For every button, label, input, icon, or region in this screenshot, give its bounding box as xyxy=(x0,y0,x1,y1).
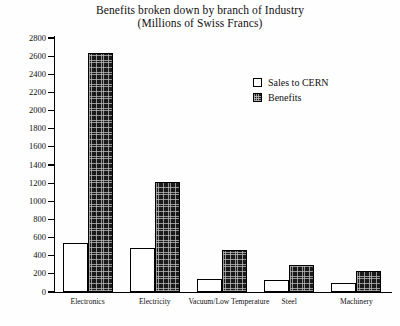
y-axis-tick-label: 400 xyxy=(2,251,46,260)
x-axis-label: Steel xyxy=(256,297,323,306)
legend-label-benefits: Benefits xyxy=(268,93,301,103)
bar-benefits xyxy=(155,182,180,292)
bar-sales xyxy=(130,248,155,292)
x-axis-label: Vacuum/Low Temperature xyxy=(188,297,255,306)
legend-item-benefits: Benefits xyxy=(253,91,329,104)
legend-swatch-sales-icon xyxy=(253,78,262,87)
bar-sales xyxy=(264,280,289,292)
legend-item-sales-to-cern: Sales to CERN xyxy=(253,76,329,89)
plot-area xyxy=(54,38,390,292)
y-axis-tick-label: 2200 xyxy=(2,88,46,97)
y-axis-tick-label: 1200 xyxy=(2,179,46,188)
x-axis-label: Machinery xyxy=(323,297,390,306)
y-axis-tick-label: 2400 xyxy=(2,70,46,79)
bar-benefits xyxy=(356,271,381,292)
y-axis-tick-label: 2000 xyxy=(2,106,46,115)
chart-title: Benefits broken down by branch of Indust… xyxy=(0,4,400,30)
y-axis-tick-label: 2800 xyxy=(2,34,46,43)
bar-sales xyxy=(331,283,356,292)
y-axis-tick-label: 0 xyxy=(2,288,46,297)
y-axis-tick-label: 600 xyxy=(2,233,46,242)
y-axis-tick-label: 800 xyxy=(2,215,46,224)
chart-title-line-1: Benefits broken down by branch of Indust… xyxy=(0,4,400,17)
y-axis-tick-label: 1800 xyxy=(2,124,46,133)
legend-swatch-benefits-icon xyxy=(253,93,262,102)
bar-benefits xyxy=(222,250,247,292)
x-axis-label: Electronics xyxy=(54,297,121,306)
bar-benefits xyxy=(88,53,113,292)
bar-sales xyxy=(197,279,222,292)
bar-benefits xyxy=(289,265,314,292)
legend-label-sales: Sales to CERN xyxy=(268,78,329,88)
bar-sales xyxy=(63,243,88,292)
y-axis-tick-label: 1600 xyxy=(2,142,46,151)
x-axis-label: Electricity xyxy=(121,297,188,306)
chart-legend: Sales to CERN Benefits xyxy=(253,76,329,106)
bar-chart: Benefits broken down by branch of Indust… xyxy=(0,0,400,326)
chart-title-line-2: (Millions of Swiss Francs) xyxy=(0,17,400,30)
y-axis-tick-label: 1000 xyxy=(2,197,46,206)
y-axis-tick-label: 1400 xyxy=(2,161,46,170)
y-axis-tick-label: 2600 xyxy=(2,52,46,61)
y-axis-tick-label: 200 xyxy=(2,269,46,278)
